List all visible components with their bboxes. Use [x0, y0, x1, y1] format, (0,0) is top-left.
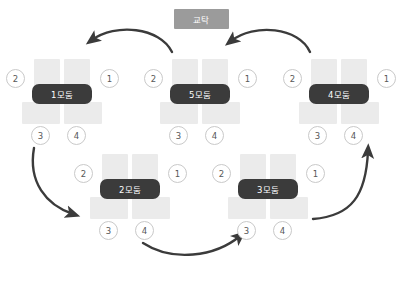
seat-3[interactable]: 3	[99, 221, 118, 240]
arrow-4-to-5	[231, 30, 310, 52]
seat-2[interactable]: 2	[144, 69, 163, 88]
desk-bottom-right	[341, 102, 379, 124]
group-cluster-1[interactable]: 2 1 3 4 1모둠	[4, 57, 122, 149]
seat-2[interactable]: 2	[283, 69, 302, 88]
seat-1[interactable]: 1	[100, 69, 119, 88]
seat-4[interactable]: 4	[205, 126, 224, 145]
desk-bottom-left	[299, 102, 337, 124]
desk-bottom-left	[22, 102, 60, 124]
arrow-5-to-1	[92, 30, 172, 52]
seat-4[interactable]: 4	[344, 126, 363, 145]
desk-bottom-left	[160, 102, 198, 124]
arrow-1-to-2	[33, 148, 73, 214]
group-label-1: 1모둠	[32, 84, 92, 104]
group-label-2: 2모둠	[100, 179, 160, 199]
group-cluster-4[interactable]: 2 1 3 4 4모둠	[281, 57, 399, 149]
group-label-3: 3모둠	[238, 179, 298, 199]
group-label-4: 4모둠	[309, 84, 369, 104]
seat-2[interactable]: 2	[6, 69, 25, 88]
seat-3[interactable]: 3	[169, 126, 188, 145]
seat-3[interactable]: 3	[237, 221, 256, 240]
seat-1[interactable]: 1	[168, 164, 187, 183]
group-cluster-5[interactable]: 2 1 3 4 5모둠	[142, 57, 260, 149]
desk-bottom-left	[90, 197, 128, 219]
seating-rotation-diagram: 교탁 2 1 3 4 1모둠 2 1	[0, 0, 403, 281]
seat-4[interactable]: 4	[67, 126, 86, 145]
seat-2[interactable]: 2	[212, 164, 231, 183]
seat-1[interactable]: 1	[238, 69, 257, 88]
seat-2[interactable]: 2	[74, 164, 93, 183]
desk-bottom-right	[132, 197, 170, 219]
desk-bottom-right	[270, 197, 308, 219]
seat-3[interactable]: 3	[308, 126, 327, 145]
podium-label: 교탁	[193, 13, 210, 25]
group-cluster-2[interactable]: 2 1 3 4 2모둠	[72, 152, 190, 244]
seat-1[interactable]: 1	[306, 164, 325, 183]
group-label-5: 5모둠	[170, 84, 230, 104]
seat-3[interactable]: 3	[31, 126, 50, 145]
seat-4[interactable]: 4	[135, 221, 154, 240]
desk-bottom-left	[228, 197, 266, 219]
seat-4[interactable]: 4	[273, 221, 292, 240]
group-cluster-3[interactable]: 2 1 3 4 3모둠	[210, 152, 328, 244]
desk-bottom-right	[202, 102, 240, 124]
seat-1[interactable]: 1	[377, 69, 396, 88]
podium-box: 교탁	[174, 9, 229, 29]
desk-bottom-right	[64, 102, 102, 124]
